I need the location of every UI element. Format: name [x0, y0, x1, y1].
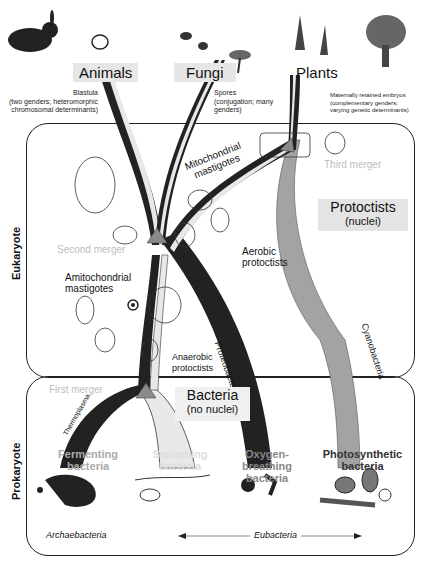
fermenting-bacteria-label: Fermenting bacteria	[48, 448, 128, 472]
kingdom-animals: Animals	[73, 63, 138, 82]
amitochondrial-mastigotes-label: Amitochondrial mastigotes	[65, 272, 131, 294]
swimming-bacteria-label: Swimming bacteria	[145, 448, 215, 472]
domain-eukaryote: Eukaryote	[10, 227, 22, 280]
anaerobic-protoctists-label: Anaerobic protoctists	[172, 352, 213, 374]
phylogeny-branches	[0, 0, 425, 565]
archaebacteria-label: Archaebacteria	[46, 530, 107, 540]
eubacteria-label: Eubacteria	[250, 530, 301, 540]
oxygen-breathing-bacteria-label: Oxygen-breathing bacteria	[222, 448, 312, 484]
domain-prokaryote: Prokaryote	[10, 443, 22, 500]
kingdom-fungi: Fungi	[174, 63, 236, 82]
bacteria-box: Bacteria (no nuclei)	[175, 387, 250, 421]
protoctists-box: Protoctists (nuclei)	[318, 199, 408, 231]
photosynthetic-bacteria-label: Photosynthetic bacteria	[320, 448, 405, 472]
third-merger-label: Third merger	[324, 159, 381, 170]
fungi-note: Spores (conjugation; many genders)	[214, 89, 284, 115]
aerobic-protoctists-label: Aerobic protoctists	[242, 246, 288, 268]
first-merger-label: First merger	[49, 384, 103, 395]
plants-note: Maternally retained embryos (complementa…	[330, 92, 425, 115]
second-merger-label: Second merger	[57, 244, 125, 255]
plant-icons	[295, 15, 406, 67]
animal-icons	[8, 10, 108, 52]
kingdom-plants: Plants	[290, 63, 344, 82]
bacteria-cells	[37, 468, 391, 507]
animals-note: Blastula (two genders; heteromorphic chr…	[0, 89, 98, 115]
